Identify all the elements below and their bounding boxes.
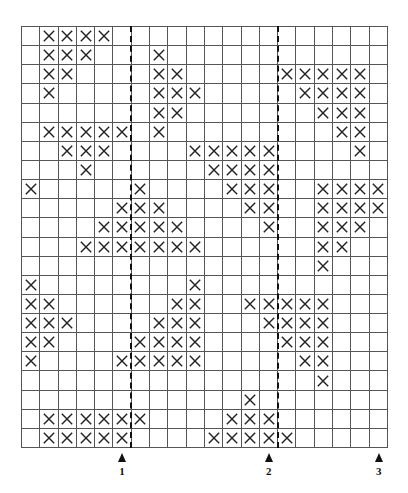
grid-cell bbox=[242, 84, 260, 103]
x-mark-icon bbox=[79, 144, 92, 157]
grid-cell bbox=[187, 123, 205, 142]
grid-cell bbox=[150, 199, 168, 218]
x-mark-icon bbox=[61, 144, 74, 157]
grid-cell bbox=[370, 314, 388, 333]
grid-cell bbox=[260, 161, 278, 180]
grid-cell bbox=[242, 314, 260, 333]
x-mark-icon bbox=[42, 87, 55, 100]
x-mark-icon bbox=[42, 297, 55, 310]
x-mark-icon bbox=[335, 240, 348, 253]
grid-cell bbox=[278, 257, 296, 276]
x-mark-icon bbox=[42, 336, 55, 349]
grid-cell bbox=[315, 371, 333, 390]
grid-cell bbox=[113, 314, 131, 333]
grid-cell bbox=[296, 238, 314, 257]
grid-cell bbox=[77, 295, 95, 314]
x-mark-icon bbox=[317, 374, 330, 387]
grid-cell bbox=[370, 46, 388, 65]
x-mark-icon bbox=[79, 240, 92, 253]
grid-cell bbox=[150, 65, 168, 84]
grid-cell bbox=[168, 104, 186, 123]
dashed-divider bbox=[130, 26, 132, 448]
grid-cell bbox=[278, 104, 296, 123]
x-mark-icon bbox=[79, 412, 92, 425]
grid-cell bbox=[168, 27, 186, 46]
x-mark-icon bbox=[116, 221, 129, 234]
grid-cell bbox=[315, 27, 333, 46]
grid-cell bbox=[132, 276, 150, 295]
grid-cell bbox=[242, 180, 260, 199]
x-mark-icon bbox=[354, 125, 367, 138]
grid-cell bbox=[242, 333, 260, 352]
x-mark-icon bbox=[152, 49, 165, 62]
grid-cell bbox=[77, 429, 95, 448]
grid-cell bbox=[187, 180, 205, 199]
grid-cell bbox=[205, 142, 223, 161]
x-mark-icon bbox=[61, 125, 74, 138]
grid-cell bbox=[351, 27, 369, 46]
x-mark-icon bbox=[317, 297, 330, 310]
grid-cell bbox=[113, 352, 131, 371]
grid-cell bbox=[278, 410, 296, 429]
x-mark-icon bbox=[24, 297, 37, 310]
grid-cell bbox=[132, 257, 150, 276]
grid-cell bbox=[187, 352, 205, 371]
grid-cell bbox=[370, 238, 388, 257]
grid-cell bbox=[59, 371, 77, 390]
grid-cell bbox=[223, 142, 241, 161]
grid-cell bbox=[168, 314, 186, 333]
x-mark-icon bbox=[335, 125, 348, 138]
grid-cell bbox=[95, 410, 113, 429]
grid-cell bbox=[22, 142, 40, 161]
grid-cell bbox=[296, 371, 314, 390]
grid-cell bbox=[223, 295, 241, 314]
grid-cell bbox=[351, 410, 369, 429]
grid-cell bbox=[40, 276, 58, 295]
grid-cell bbox=[95, 65, 113, 84]
grid-cell bbox=[242, 276, 260, 295]
grid-cell bbox=[187, 276, 205, 295]
x-mark-icon bbox=[262, 412, 275, 425]
grid-cell bbox=[333, 314, 351, 333]
x-mark-icon bbox=[299, 297, 312, 310]
grid-cell bbox=[40, 352, 58, 371]
grid-cell bbox=[296, 352, 314, 371]
x-mark-icon bbox=[97, 412, 110, 425]
x-mark-icon bbox=[24, 355, 37, 368]
x-mark-icon bbox=[244, 183, 257, 196]
grid-cell bbox=[351, 371, 369, 390]
x-mark-icon bbox=[354, 183, 367, 196]
grid-cell bbox=[113, 180, 131, 199]
grid-cell bbox=[95, 333, 113, 352]
grid-cell bbox=[242, 161, 260, 180]
grid-cell bbox=[168, 218, 186, 237]
grid-cell bbox=[187, 46, 205, 65]
grid-cell bbox=[22, 84, 40, 103]
grid-cell bbox=[333, 257, 351, 276]
grid-cell bbox=[113, 46, 131, 65]
x-mark-icon bbox=[299, 68, 312, 81]
grid-cell bbox=[77, 180, 95, 199]
grid-cell bbox=[150, 27, 168, 46]
grid-cell bbox=[242, 410, 260, 429]
grid-cell bbox=[278, 161, 296, 180]
grid-cell bbox=[113, 276, 131, 295]
grid-cell bbox=[260, 46, 278, 65]
grid-cell bbox=[77, 84, 95, 103]
grid-cell bbox=[77, 371, 95, 390]
grid-cell bbox=[40, 180, 58, 199]
grid-cell bbox=[315, 65, 333, 84]
x-mark-icon bbox=[225, 164, 238, 177]
grid-cell bbox=[260, 199, 278, 218]
grid-cell bbox=[168, 199, 186, 218]
grid-cell bbox=[77, 27, 95, 46]
grid-cell bbox=[278, 142, 296, 161]
grid-cell bbox=[370, 84, 388, 103]
x-mark-icon bbox=[152, 202, 165, 215]
marker-1: 1 bbox=[112, 453, 132, 477]
x-mark-icon bbox=[354, 144, 367, 157]
grid-cell bbox=[370, 161, 388, 180]
grid-cell bbox=[22, 123, 40, 142]
grid-cell bbox=[168, 295, 186, 314]
grid-cell bbox=[205, 218, 223, 237]
